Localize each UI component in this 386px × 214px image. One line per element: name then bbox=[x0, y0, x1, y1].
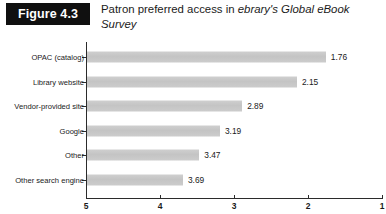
category-label: Library website bbox=[33, 77, 84, 86]
x-axis-tick bbox=[382, 195, 383, 199]
figure-number-badge: Figure 4.3 bbox=[6, 3, 90, 25]
x-axis-tick-label: 1 bbox=[380, 201, 385, 211]
bar-value-label: 3.69 bbox=[188, 175, 204, 185]
x-axis-tick-label: 2 bbox=[306, 201, 311, 211]
x-axis-tick-label: 5 bbox=[84, 201, 89, 211]
bar bbox=[87, 175, 183, 186]
bar-value-label: 2.15 bbox=[302, 77, 318, 87]
category-label: Other search engine bbox=[15, 176, 84, 185]
figure-title: Patron preferred access in ebrary's Glob… bbox=[101, 2, 379, 32]
bar-value-label: 3.19 bbox=[225, 126, 241, 136]
bar bbox=[87, 76, 297, 87]
bar bbox=[87, 150, 199, 161]
bar-chart: OPAC (catalog)1.76Library website2.15Ven… bbox=[0, 40, 386, 214]
x-axis-tick bbox=[308, 195, 309, 199]
x-axis-tick bbox=[86, 195, 87, 199]
category-label: Vendor-provided site bbox=[14, 102, 84, 111]
bar-value-label: 3.47 bbox=[204, 150, 220, 160]
category-label: OPAC (catalog) bbox=[31, 53, 84, 62]
category-label: Other bbox=[65, 151, 84, 160]
x-axis-tick bbox=[160, 195, 161, 199]
bar bbox=[87, 52, 326, 63]
x-axis-tick bbox=[234, 195, 235, 199]
bar bbox=[87, 125, 220, 136]
x-axis-tick-label: 3 bbox=[232, 201, 237, 211]
figure-header: Figure 4.3 Patron preferred access in eb… bbox=[0, 0, 386, 42]
bar bbox=[87, 101, 242, 112]
category-label: Google bbox=[60, 126, 85, 135]
bar-value-label: 2.89 bbox=[247, 101, 263, 111]
figure-title-text: Patron preferred access in bbox=[101, 3, 238, 15]
bar-value-label: 1.76 bbox=[331, 52, 347, 62]
x-axis-tick-label: 4 bbox=[158, 201, 163, 211]
